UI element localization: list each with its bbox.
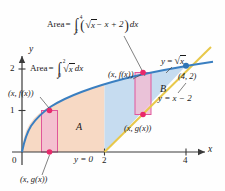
x-axis-label: x: [208, 145, 212, 155]
linear-curve-label: y = x − 2: [158, 94, 192, 103]
sqrt-label-radicand: x: [180, 56, 184, 66]
differential-top: dx: [130, 20, 139, 29]
point-label-gx-right: (x, g(x)): [124, 124, 151, 133]
sqrt-label-y: y: [161, 56, 165, 66]
region-a-shading: [22, 85, 105, 152]
sqrt-radical-left: √x: [63, 63, 73, 74]
integral-lower-limit-left: 0: [58, 73, 61, 79]
intersection-point-label: (4, 2): [178, 72, 196, 81]
area-annotation-top: Area = ∫42 ( √x − x + 2 ) dx: [47, 18, 138, 32]
y-axis-arrow: [19, 56, 25, 63]
region-a-label: A: [76, 122, 82, 132]
point-marker-fx-right: [140, 70, 146, 76]
leader-line-gx-left: [42, 155, 50, 175]
sqrt-label-radical: √x: [175, 55, 185, 66]
radicand-left: x: [69, 64, 73, 74]
area-word-left: Area: [30, 64, 48, 73]
origin-label: 0: [12, 156, 17, 165]
integral-sign-top: ∫42: [74, 18, 78, 32]
y-tick-label-1: 1: [10, 106, 15, 115]
representative-rectangle-a: [42, 111, 58, 153]
leader-line-linear-label: [178, 83, 186, 93]
integral-lower-limit-top: 2: [75, 29, 78, 35]
equals-sign-top: =: [66, 20, 71, 29]
sqrt-curve-label: y = √x: [161, 55, 184, 66]
point-marker-gx-right: [140, 112, 146, 118]
baseline-label: y = 0: [74, 155, 93, 164]
equals-sign-left: =: [49, 64, 54, 73]
x-tick-label-4: 4: [183, 156, 188, 165]
integrand-rest: − x + 2: [96, 20, 123, 29]
radicand-top: x: [91, 20, 95, 30]
leader-line-fx-left: [40, 97, 49, 108]
x-tick-label-2: 2: [102, 156, 107, 165]
point-label-fx-right: (x, f(x)): [108, 70, 133, 79]
region-b-label: B: [160, 84, 166, 94]
integrand-close-paren: ): [125, 17, 129, 32]
integrand-open-paren: (: [80, 17, 84, 32]
differential-left: dx: [75, 64, 84, 73]
y-tick-label-2: 2: [10, 64, 15, 73]
x-axis-arrow: [198, 149, 205, 155]
sqrt-label-equals: =: [167, 56, 172, 66]
y-axis-label: y: [29, 45, 33, 55]
integral-sign-left: ∫20: [57, 62, 61, 76]
area-word-top: Area: [47, 20, 65, 29]
area-annotation-left: Area = ∫20 √x dx: [30, 62, 83, 76]
point-marker-gx-left: [47, 149, 53, 155]
point-label-fx-left: (x, f(x)): [8, 89, 33, 98]
point-marker-fx-left: [47, 108, 53, 114]
area-between-curves-figure: Area = ∫42 ( √x − x + 2 ) dx Area = ∫20 …: [0, 0, 225, 191]
point-label-gx-left: (x, g(x)): [20, 175, 47, 184]
sqrt-radical-top: √x: [86, 19, 96, 30]
